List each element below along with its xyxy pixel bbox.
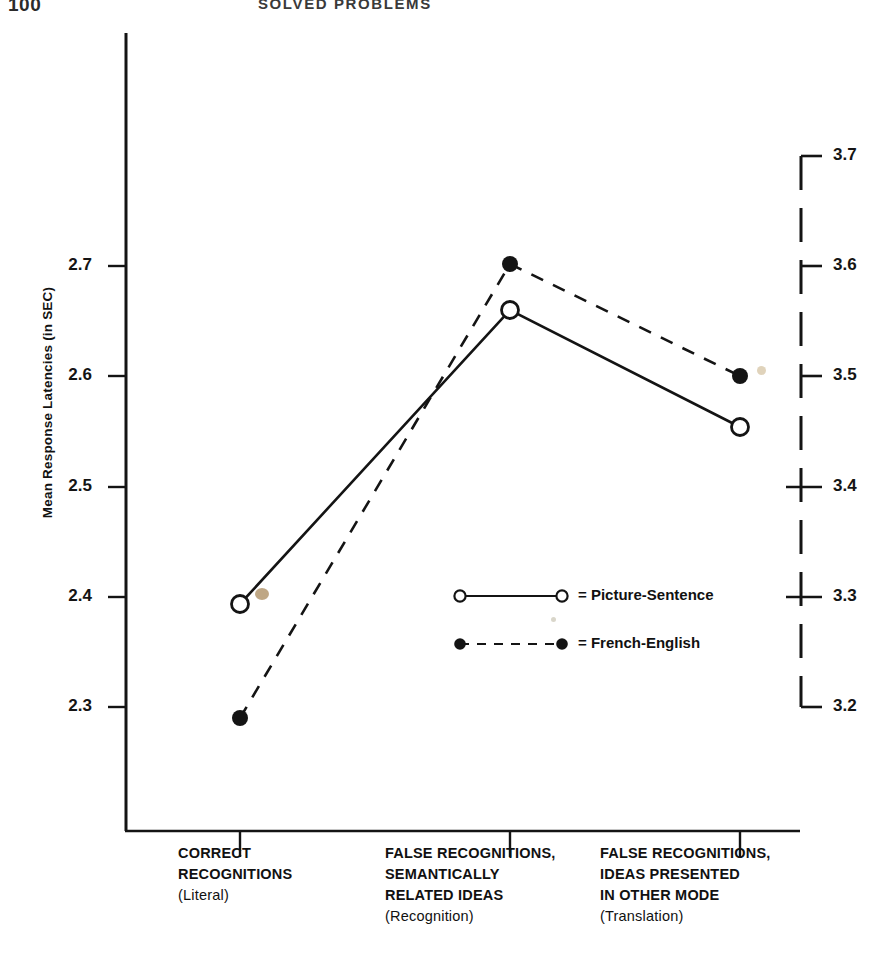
legend-equals-2: =	[578, 634, 587, 651]
legend-series-name-2: French-English	[591, 634, 700, 651]
legend-label-picture-sentence: = Picture-Sentence	[578, 586, 713, 603]
chart-legend: = Picture-Sentence = French-English	[452, 586, 782, 682]
category-2-line-1: FALSE RECOGNITIONS,	[385, 843, 556, 864]
right-axis-tick-label-5: 3.3	[833, 586, 876, 606]
legend-marker-filled-circle-dashed	[452, 636, 570, 652]
right-axis-tick-label-4: 3.4	[833, 476, 876, 496]
category-1-line-1: CORRECT	[178, 843, 292, 864]
data-point-french-english-2	[502, 256, 518, 272]
chart-svg	[0, 0, 876, 966]
figure-page: 100 SOLVED PROBLEMS	[0, 0, 876, 966]
x-axis-category-label-2: FALSE RECOGNITIONS, SEMANTICALLY RELATED…	[385, 843, 556, 928]
chart-plot-area: 2.7 2.6 2.5 2.4 2.3 3.7 3.6 3.5 3.4 3.3 …	[0, 0, 876, 966]
category-3-line-4: (Translation)	[600, 906, 771, 927]
x-axis-category-label-3: FALSE RECOGNITIONS, IDEAS PRESENTED IN O…	[600, 843, 771, 928]
x-axis-category-label-1: CORRECT RECOGNITIONS (Literal)	[178, 843, 292, 906]
category-2-line-4: (Recognition)	[385, 906, 556, 927]
legend-row-french-english: = French-English	[452, 634, 782, 682]
right-axis-tick-label-1: 3.7	[833, 145, 876, 165]
data-point-french-english-3	[732, 368, 748, 384]
legend-marker-open-circle-line	[452, 588, 570, 604]
y-axis-title: Mean Response Latencies (in SEC)	[40, 273, 55, 533]
right-axis-tick-label-2: 3.6	[833, 255, 876, 275]
category-1-line-2: RECOGNITIONS	[178, 864, 292, 885]
category-3-line-1: FALSE RECOGNITIONS,	[600, 843, 771, 864]
legend-equals-1: =	[578, 586, 587, 603]
category-2-line-3: RELATED IDEAS	[385, 885, 556, 906]
data-point-french-english-1	[232, 710, 248, 726]
left-axis-tick-label-5: 2.3	[32, 696, 92, 716]
left-axis-tick-label-4: 2.4	[32, 586, 92, 606]
legend-row-picture-sentence: = Picture-Sentence	[452, 586, 782, 634]
left-axis-ticks	[108, 266, 126, 707]
legend-series-name-1: Picture-Sentence	[591, 586, 714, 603]
category-2-line-2: SEMANTICALLY	[385, 864, 556, 885]
right-axis-tick-label-6: 3.2	[833, 696, 876, 716]
data-point-picture-sentence-3	[732, 419, 749, 436]
category-3-line-3: IN OTHER MODE	[600, 885, 771, 906]
category-1-line-3: (Literal)	[178, 885, 292, 906]
right-axis-tick-label-3: 3.5	[833, 365, 876, 385]
series-picture-sentence	[232, 302, 749, 613]
data-point-picture-sentence-2	[502, 302, 519, 319]
category-3-line-2: IDEAS PRESENTED	[600, 864, 771, 885]
data-point-picture-sentence-1	[232, 596, 249, 613]
right-axis	[786, 156, 822, 707]
legend-label-french-english: = French-English	[578, 634, 700, 651]
